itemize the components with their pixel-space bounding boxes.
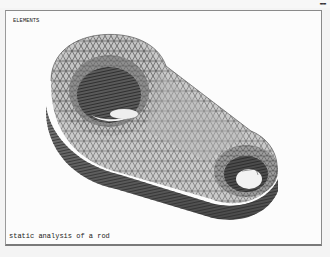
analysis-title: static analysis of a rod: [9, 232, 110, 240]
title-bar: ▬▬: [0, 0, 330, 8]
connecting-rod-model: [6, 11, 321, 244]
graphics-window[interactable]: ELEMENTS: [5, 10, 322, 246]
corner-label: ▬▬: [320, 0, 326, 6]
model-viewport[interactable]: [6, 11, 321, 244]
